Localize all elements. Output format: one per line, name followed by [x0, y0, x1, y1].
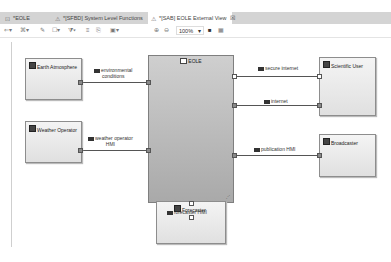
canvas-left-border [11, 42, 12, 247]
actor-weather-operator[interactable]: Weather Operator [25, 121, 82, 163]
exchange-label-internet[interactable]: internet [264, 98, 288, 104]
exchange-icon [94, 69, 100, 73]
system-icon [180, 58, 187, 64]
diagram-warning-icon: ⚠ [151, 16, 157, 22]
tab-eole-external-view[interactable]: ⚠*[SAB] EOLE External View ☒ [148, 12, 232, 24]
arrange-tool-icon[interactable]: ⌘▾ [20, 26, 29, 35]
note-tool-icon[interactable]: ⎘ [96, 26, 101, 35]
port-eole-publication[interactable] [232, 153, 237, 158]
exchange-label-forecaster-hmi[interactable]: forecaster HMI [167, 209, 207, 215]
text-tool-icon[interactable]: ≡ [86, 26, 90, 35]
select-tool-icon[interactable]: ⇐▾ [4, 26, 12, 35]
exchange-label-weather-operator-hmi[interactable]: weather operator HMI [88, 135, 133, 147]
zoom-level-select[interactable]: 100%▾ [176, 26, 204, 35]
port-eole-internet[interactable] [232, 103, 237, 108]
system-eole[interactable]: EOLE ⋰ [148, 55, 234, 203]
exchange-line-environmental-conditions[interactable] [82, 82, 150, 83]
port-eole-environmental[interactable] [146, 80, 151, 85]
exchange-label-publication-hmi[interactable]: publication HMI [254, 146, 295, 152]
filter-tool-icon[interactable]: ⧩▾ [68, 26, 76, 35]
actor-icon [29, 125, 36, 132]
port-scientific-user-secure[interactable] [317, 74, 322, 79]
port-eole-forecaster[interactable] [189, 201, 194, 206]
exchange-label-environmental-conditions[interactable]: environmental conditions [94, 67, 132, 79]
actor-icon [323, 138, 330, 145]
layer-tool-icon[interactable]: ☐▾ [52, 26, 60, 35]
exchange-icon [264, 100, 270, 104]
port-earth-atmosphere[interactable] [78, 80, 83, 85]
actor-icon [323, 61, 330, 68]
export-tool-icon[interactable]: ▣▾ [110, 26, 119, 35]
exchange-icon [258, 67, 264, 71]
actor-scientific-user[interactable]: Scientific User [319, 57, 376, 116]
exchange-icon [167, 211, 173, 215]
exchange-icon [254, 148, 260, 152]
resize-handle-icon[interactable]: ⋰ [226, 194, 230, 199]
port-scientific-user-internet[interactable] [317, 103, 322, 108]
exchange-icon [88, 137, 94, 141]
port-forecaster[interactable] [189, 215, 194, 220]
exchange-line-publication-hmi[interactable] [234, 155, 319, 156]
actor-broadcaster[interactable]: Broadcaster [319, 134, 376, 177]
project-icon: ⊡ [5, 16, 11, 22]
actor-earth-atmosphere[interactable]: Earth Atmosphere [25, 58, 82, 100]
exchange-line-internet[interactable] [234, 105, 319, 106]
exchange-label-secure-internet[interactable]: secure internet [258, 65, 298, 71]
grid-tool-icon[interactable]: ▦ [218, 26, 224, 35]
port-eole-weather-hmi[interactable] [146, 148, 151, 153]
exchange-line-secure-internet[interactable] [234, 76, 319, 77]
port-broadcaster[interactable] [317, 153, 322, 158]
chevron-down-icon: ▾ [198, 27, 201, 36]
diagram-warning-icon: ⚠ [55, 16, 61, 22]
actor-icon [29, 62, 36, 69]
zoom-in-icon[interactable]: ⊕ [154, 26, 159, 35]
zoom-out-icon[interactable]: ⊖ [164, 26, 169, 35]
tab-eole[interactable]: ⊡*EOLE [2, 12, 52, 24]
actor-forecaster[interactable]: Forecaster [156, 201, 226, 244]
tab-system-level-functions[interactable]: ⚠*[SFBD] System Level Functions [52, 12, 147, 24]
port-eole-secure-internet[interactable] [232, 74, 237, 79]
close-tab-icon[interactable]: ☒ [230, 15, 235, 21]
pin-tool-icon[interactable]: ✎ [40, 26, 45, 35]
exchange-line-weather-operator-hmi[interactable] [82, 150, 150, 151]
port-weather-operator[interactable] [78, 148, 83, 153]
camera-tool-icon[interactable]: ■ [208, 26, 212, 35]
